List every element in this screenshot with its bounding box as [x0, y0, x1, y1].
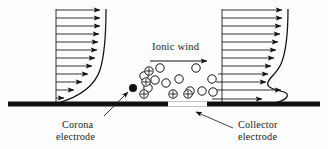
particle: [209, 88, 217, 96]
downstream-velocity-profile: [212, 9, 288, 105]
positive-ion: [145, 67, 153, 75]
collector-electrode-segment: [168, 102, 207, 107]
diagram-canvas: Ionic wind: [0, 0, 328, 149]
ionic-wind-label: Ionic wind: [152, 41, 200, 52]
positive-ion: [184, 90, 192, 98]
upstream-velocity-profile: [56, 9, 106, 103]
positive-ion: [140, 90, 148, 98]
collector-electrode-leader: [196, 112, 233, 128]
corona-electrode-dot: [129, 84, 137, 92]
particle: [198, 87, 206, 95]
positive-ion: [169, 90, 177, 98]
upstream-profile-envelope: [58, 9, 106, 103]
particle: [151, 76, 159, 84]
wall-plate: [8, 102, 320, 107]
ground-plate: [8, 102, 320, 107]
corona-electrode-label-line1: Corona: [62, 119, 93, 130]
collector-electrode-label-line1: Collector: [238, 119, 278, 130]
positive-ion: [142, 78, 150, 86]
particle: [162, 79, 170, 87]
particle: [175, 75, 183, 83]
collector-electrode-label-line2: electrode: [238, 131, 277, 142]
particle: [208, 75, 216, 83]
particle: [156, 64, 164, 72]
corona-electrode-label-line2: electrode: [56, 131, 95, 142]
ionic-wind-diagram: Ionic wind: [0, 0, 328, 149]
particle: [192, 64, 200, 72]
ionic-wind-annotation: Ionic wind: [150, 41, 207, 61]
collector-electrode-annotation: Collector electrode: [196, 112, 278, 142]
